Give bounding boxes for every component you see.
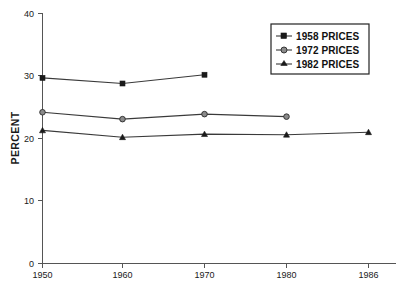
x-tick-label-1960: 1960 — [112, 270, 132, 280]
legend-marker-circle-icon — [281, 47, 287, 53]
series-1958-prices — [40, 72, 207, 86]
legend-label-1958: 1958 PRICES — [296, 31, 360, 42]
x-tick-label-1950: 1950 — [32, 270, 52, 280]
y-tick-label-0: 0 — [29, 259, 34, 269]
legend-marker-square-icon — [281, 33, 287, 39]
chart-canvas: 40 30 20 10 0 PERCENT 1950 1960 1970 198… — [0, 0, 402, 292]
data-point — [120, 81, 125, 86]
series-1982-prices — [40, 127, 372, 139]
data-point — [202, 72, 207, 77]
series-1972-prices — [40, 109, 290, 121]
y-tick-label-10: 10 — [24, 196, 34, 206]
line-chart: 40 30 20 10 0 PERCENT 1950 1960 1970 198… — [0, 0, 402, 292]
data-point — [40, 109, 46, 115]
y-axis-title: PERCENT — [9, 111, 21, 164]
x-tick-label-1980: 1980 — [276, 270, 296, 280]
series-line — [43, 112, 287, 119]
x-tick-label-1986: 1986 — [358, 270, 378, 280]
data-point — [284, 114, 290, 120]
data-point — [202, 111, 208, 117]
legend-label-1982: 1982 PRICES — [296, 59, 360, 70]
chart-legend: 1958 PRICES 1972 PRICES 1982 PRICES — [271, 24, 369, 74]
y-tick-label-40: 40 — [24, 9, 34, 19]
series-layer — [40, 72, 372, 139]
y-tick-label-20: 20 — [24, 134, 34, 144]
data-point — [40, 75, 45, 80]
legend-label-1972: 1972 PRICES — [296, 45, 360, 56]
data-point — [120, 116, 126, 122]
y-tick-label-30: 30 — [24, 71, 34, 81]
x-tick-label-1970: 1970 — [194, 270, 214, 280]
